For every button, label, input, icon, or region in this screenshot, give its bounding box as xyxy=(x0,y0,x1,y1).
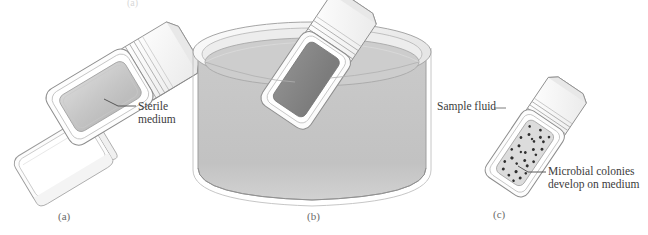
panel-letter-b: (b) xyxy=(307,210,320,222)
panel-letter-c: (c) xyxy=(493,208,505,220)
callout-sterile-medium: Sterile medium xyxy=(138,100,176,126)
panel-a-artwork xyxy=(11,16,205,208)
figure-container: (a) Sterile medium Sample fluid Microbia… xyxy=(0,0,648,235)
dip-slide-sterile xyxy=(42,16,205,149)
panel-letter-a: (a) xyxy=(58,210,70,222)
callout-sample-fluid: Sample fluid xyxy=(437,100,496,113)
figure-artwork xyxy=(0,0,648,235)
ghost-panel-letter: (a) xyxy=(127,0,138,8)
callout-microbial-colonies: Microbial colonies develop on medium xyxy=(548,165,639,191)
panel-b-artwork xyxy=(193,0,431,206)
